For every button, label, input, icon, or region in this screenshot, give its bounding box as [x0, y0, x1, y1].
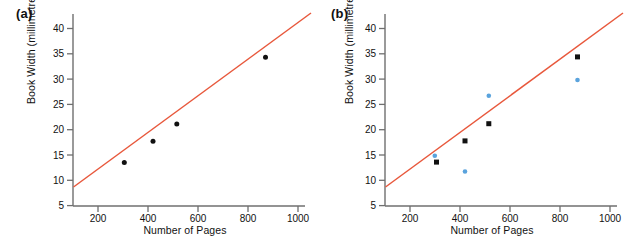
- panel-a-ytick-25: 25: [42, 99, 64, 110]
- regression-line: [74, 13, 312, 187]
- panel-b-ytick-15: 15: [354, 150, 376, 161]
- y-tick-marks: [67, 29, 73, 206]
- panel-b: (b): [315, 0, 629, 247]
- panel-a-xtick-600: 600: [181, 213, 215, 224]
- panel-a-ytick-5: 5: [42, 200, 64, 211]
- panel-b-xtick-200: 200: [393, 213, 427, 224]
- panel-b-ytick-35: 35: [354, 48, 376, 59]
- panel-a-xtick-400: 400: [131, 213, 165, 224]
- data-points-black: [434, 54, 580, 164]
- panel-b-xtick-400: 400: [443, 213, 477, 224]
- panel-b-x-axis-label: Number of Pages: [315, 224, 629, 236]
- panel-b-ytick-40: 40: [354, 23, 376, 34]
- panel-b-ytick-5: 5: [354, 200, 376, 211]
- panel-b-ytick-25: 25: [354, 99, 376, 110]
- panel-a-ytick-20: 20: [42, 124, 64, 135]
- data-points-black: [122, 55, 268, 165]
- panel-b-ytick-10: 10: [354, 175, 376, 186]
- panel-b-ytick-30: 30: [354, 74, 376, 85]
- panel-a-plot-area: 5 10 15 20 25 30 35 40 200 400 600 800 1…: [0, 0, 314, 247]
- x-tick-marks: [98, 206, 298, 212]
- panel-b-xtick-1000: 1000: [593, 213, 627, 224]
- y-tick-marks: [379, 29, 385, 206]
- regression-line: [386, 13, 624, 187]
- panel-a-xtick-1000: 1000: [281, 213, 315, 224]
- x-tick-marks: [410, 206, 610, 212]
- panel-b-y-axis-label: Book Width (millimetres): [343, 0, 355, 126]
- figure-two-panel-scatter: (a): [0, 0, 629, 247]
- panel-a-x-axis-label: Number of Pages: [0, 224, 342, 236]
- panel-a-ytick-40: 40: [42, 23, 64, 34]
- panel-a-xtick-800: 800: [231, 213, 265, 224]
- panel-a-xtick-200: 200: [81, 213, 115, 224]
- data-points-blue: [433, 78, 580, 174]
- panel-a: (a): [0, 0, 314, 247]
- panel-a-y-axis-label: Book Width (millimetres): [25, 0, 37, 126]
- panel-b-plot-area: 5 10 15 20 25 30 35 40 200 400 600 800 1…: [315, 0, 629, 247]
- panel-b-xtick-600: 600: [493, 213, 527, 224]
- panel-b-xtick-800: 800: [543, 213, 577, 224]
- panel-b-ytick-20: 20: [354, 124, 376, 135]
- panel-a-ytick-15: 15: [42, 150, 64, 161]
- panel-a-ytick-30: 30: [42, 74, 64, 85]
- panel-a-ytick-35: 35: [42, 48, 64, 59]
- panel-a-ytick-10: 10: [42, 175, 64, 186]
